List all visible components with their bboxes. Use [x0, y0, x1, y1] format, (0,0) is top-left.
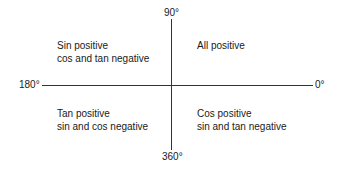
quadrant-bottom-left-line2: sin and cos negative — [57, 120, 148, 133]
angle-label-180: 180° — [19, 79, 40, 90]
quadrant-top-right: All positive — [197, 39, 245, 52]
angle-label-90: 90° — [164, 7, 179, 18]
quadrant-top-left-line2: cos and tan negative — [57, 52, 149, 65]
quadrant-bottom-right-line1: Cos positive — [197, 107, 287, 120]
quadrant-bottom-right-line2: sin and tan negative — [197, 120, 287, 133]
quadrant-top-left: Sin positive cos and tan negative — [57, 39, 149, 65]
quadrant-bottom-right: Cos positive sin and tan negative — [197, 107, 287, 133]
quadrant-bottom-left-line1: Tan positive — [57, 107, 148, 120]
angle-label-0: 0° — [315, 79, 325, 90]
quadrant-top-right-line1: All positive — [197, 39, 245, 52]
quadrant-bottom-left: Tan positive sin and cos negative — [57, 107, 148, 133]
angle-label-360: 360° — [162, 151, 183, 162]
quadrant-top-left-line1: Sin positive — [57, 39, 149, 52]
vertical-axis — [171, 19, 172, 150]
horizontal-axis — [42, 85, 313, 86]
